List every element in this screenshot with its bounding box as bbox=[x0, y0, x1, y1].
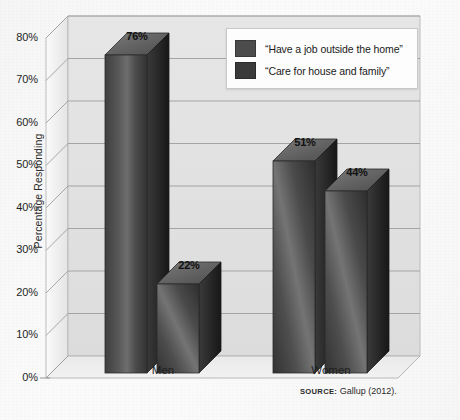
data-label-women-job: 51% bbox=[280, 136, 330, 148]
y-tick-20: 20% bbox=[0, 286, 38, 298]
data-label-women-care: 44% bbox=[332, 166, 382, 178]
y-tick-0: 0% bbox=[0, 371, 38, 383]
y-tick-10: 10% bbox=[0, 328, 38, 340]
legend-item-care: “Care for house and family” bbox=[235, 62, 408, 79]
y-tick-80: 80% bbox=[0, 31, 38, 43]
bar-men-care bbox=[157, 262, 221, 373]
x-category-men: Men bbox=[118, 364, 208, 376]
legend-swatch-job bbox=[235, 40, 256, 57]
legend-item-job: “Have a job outside the home” bbox=[235, 40, 408, 57]
y-tick-70: 70% bbox=[0, 73, 38, 85]
source-kicker: SOURCE: bbox=[300, 387, 337, 396]
x-category-women: Women bbox=[286, 364, 376, 376]
legend-label-job: “Have a job outside the home” bbox=[265, 43, 403, 55]
y-tick-30: 30% bbox=[0, 243, 38, 255]
y-tick-50: 50% bbox=[0, 158, 38, 170]
source-text: Gallup (2012). bbox=[337, 386, 397, 396]
bar-chart: Percentage Responding 80% 70% 60% 50% 40… bbox=[0, 0, 460, 420]
data-label-men-job: 76% bbox=[112, 30, 162, 42]
bar-women-care bbox=[325, 169, 389, 373]
chart-legend: “Have a job outside the home” “Care for … bbox=[226, 28, 418, 89]
legend-swatch-care bbox=[235, 62, 256, 79]
source-note: SOURCE: Gallup (2012). bbox=[300, 386, 397, 396]
y-tick-40: 40% bbox=[0, 201, 38, 213]
data-label-men-care: 22% bbox=[164, 259, 214, 271]
legend-label-care: “Care for house and family” bbox=[265, 65, 390, 77]
y-tick-60: 60% bbox=[0, 116, 38, 128]
